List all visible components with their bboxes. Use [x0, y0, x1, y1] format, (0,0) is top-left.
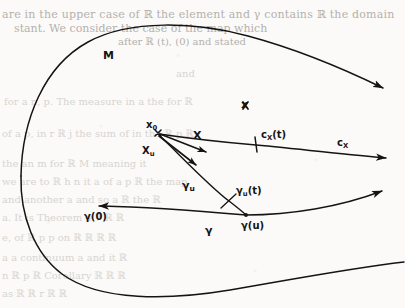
point-marker-x: [243, 102, 248, 109]
diagram-drawing: [0, 0, 405, 308]
manifold-boundary-lower: [21, 176, 404, 297]
point-marker-gamma-u: [244, 213, 248, 217]
tick-cX-t: [255, 137, 257, 152]
curve-gamma-right-segment: [246, 191, 382, 215]
curve-gamma-left-segment: [102, 206, 246, 215]
figure-container: are in the upper case of ℝ the element a…: [0, 0, 405, 308]
manifold-boundary-upper: [21, 25, 383, 176]
curve-cX: [159, 134, 386, 158]
